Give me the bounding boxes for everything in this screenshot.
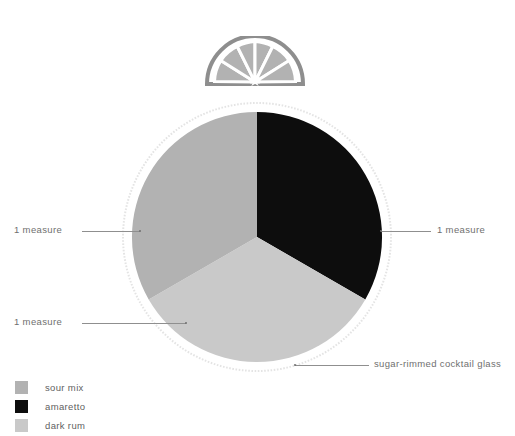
leader-line-amaretto: [381, 231, 431, 232]
leader-dot-sour-mix: [139, 230, 141, 232]
legend-swatch-amaretto: [15, 400, 28, 413]
cocktail-pie-chart: [112, 92, 402, 382]
leader-dot-glass: [294, 364, 296, 366]
legend-item-dark-rum[interactable]: dark rum: [15, 416, 85, 435]
lemon-wedge-garnish-icon: [205, 36, 305, 86]
legend-label-sour-mix: sour mix: [45, 382, 84, 393]
legend-item-sour-mix[interactable]: sour mix: [15, 378, 85, 397]
legend-swatch-sour-mix: [15, 381, 28, 394]
legend-item-amaretto[interactable]: amaretto: [15, 397, 85, 416]
leader-line-glass: [295, 365, 369, 366]
legend-swatch-dark-rum: [15, 419, 28, 432]
leader-line-dark-rum: [82, 323, 186, 324]
legend-label-amaretto: amaretto: [45, 401, 85, 412]
callout-label-sour-mix: 1 measure: [14, 224, 62, 236]
infographic-canvas: 1 measure 1 measure 1 measure sugar-rimm…: [0, 0, 515, 436]
leader-dot-dark-rum: [185, 322, 187, 324]
leader-dot-amaretto: [380, 230, 382, 232]
legend: sour mix amaretto dark rum: [15, 378, 85, 435]
callout-label-dark-rum: 1 measure: [14, 316, 62, 328]
callout-label-amaretto: 1 measure: [437, 224, 485, 236]
leader-line-sour-mix: [82, 231, 140, 232]
legend-label-dark-rum: dark rum: [45, 420, 85, 431]
callout-label-glass: sugar-rimmed cocktail glass: [374, 358, 501, 370]
